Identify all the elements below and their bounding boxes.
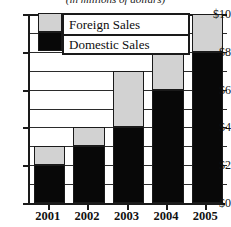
y-tick-label-3: $6	[205, 84, 231, 96]
y-tick-mark-2	[23, 127, 28, 129]
legend-label-domestic-sales: Domestic Sales	[64, 38, 150, 51]
y-tick-mark-1	[23, 165, 28, 167]
legend-swatch-foreign-sales	[38, 13, 62, 32]
y-tick-mark-4	[23, 52, 28, 54]
y-tick-mark-5	[23, 14, 28, 16]
x-tick-label-2002: 2002	[67, 209, 106, 223]
bar-group-2004	[152, 52, 184, 203]
bar-group-2002	[73, 127, 105, 203]
bar-group-2005	[192, 14, 224, 203]
legend-label-foreign-sales: Foreign Sales	[64, 18, 140, 31]
sales-bar-chart: (in millions of dollars) $0$2$4$6$8$10 2…	[0, 0, 231, 227]
x-tick-label-2005: 2005	[186, 209, 225, 223]
y-tick-label-0: $0	[205, 197, 231, 209]
y-tick-label-2: $4	[205, 121, 231, 133]
bar-segment-domestic-2004	[152, 90, 184, 203]
chart-legend: Foreign Sales Domestic Sales	[62, 13, 190, 55]
bar-segment-domestic-2001	[34, 165, 66, 203]
bar-group-2003	[113, 71, 145, 203]
bar-segment-foreign-2001	[34, 146, 66, 165]
y-tick-mark-3	[23, 90, 28, 92]
x-tick-label-2004: 2004	[146, 209, 185, 223]
bar-segment-domestic-2002	[73, 146, 105, 203]
legend-swatch-domestic-sales	[38, 32, 62, 51]
x-tick-label-2003: 2003	[107, 209, 146, 223]
y-tick-mark-0	[23, 203, 28, 205]
bar-segment-foreign-2002	[73, 127, 105, 146]
y-tick-label-5: $10	[205, 8, 231, 20]
bar-segment-domestic-2003	[113, 127, 145, 203]
legend-item-domestic-sales: Domestic Sales	[64, 34, 188, 53]
x-tick-label-2001: 2001	[28, 209, 67, 223]
bar-segment-foreign-2004	[152, 52, 184, 90]
bar-segment-foreign-2003	[113, 71, 145, 128]
bar-group-2001	[34, 146, 66, 203]
y-tick-label-4: $8	[205, 46, 231, 58]
legend-item-foreign-sales: Foreign Sales	[64, 15, 188, 34]
chart-subtitle: (in millions of dollars)	[0, 0, 231, 5]
y-tick-label-1: $2	[205, 159, 231, 171]
